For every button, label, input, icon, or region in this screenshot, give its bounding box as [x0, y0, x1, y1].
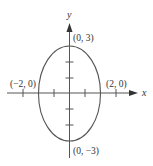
point-label-left: (−2, 0)	[10, 79, 36, 90]
y-axis-arrow-icon	[67, 23, 73, 32]
y-axis-label: y	[66, 9, 72, 20]
point-label-bottom: (0, −3)	[73, 146, 99, 157]
x-axis-arrow-icon	[129, 90, 138, 96]
ellipse-diagram: y x (0, 3) (0, −3) (−2, 0) (2, 0)	[0, 0, 153, 166]
point-label-right: (2, 0)	[106, 79, 127, 90]
x-axis-label: x	[141, 87, 147, 98]
point-label-top: (0, 3)	[73, 33, 94, 44]
